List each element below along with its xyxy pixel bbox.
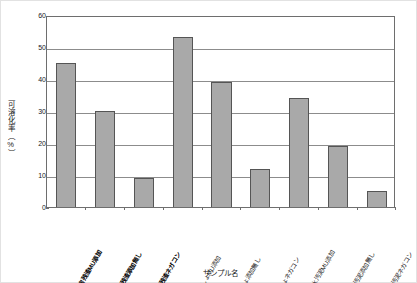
bar	[250, 169, 270, 207]
bar-slot	[47, 17, 86, 207]
y-axis-tick-label: 60	[6, 12, 46, 19]
bar-slot	[125, 17, 164, 207]
y-axis-tick-label: 50	[6, 44, 46, 51]
bar-slot	[241, 17, 280, 207]
bar	[289, 98, 309, 207]
bar-slot	[318, 17, 357, 207]
bar	[95, 111, 115, 207]
bar-slot	[202, 17, 241, 207]
y-axis-tick-label: 40	[6, 76, 46, 83]
bar	[134, 178, 154, 207]
plot-area	[46, 16, 395, 208]
bar-slot	[86, 17, 125, 207]
bar	[328, 146, 348, 207]
x-axis-tick-mark	[395, 207, 396, 210]
y-axis-tick-label: 20	[6, 140, 46, 147]
x-axis-label-group: 厨房残渣MU添加厨房残渣添加無し厨房残渣ネガコンばれいしょMU添加ばれいしょ添加…	[46, 209, 395, 267]
bar	[56, 63, 76, 207]
y-axis-tick-label: 0	[6, 204, 46, 211]
bar	[367, 191, 387, 207]
bar-chart-figure: 可溶化率（%） 0102030405060 厨房残渣MU添加厨房残渣添加無し厨房…	[0, 0, 417, 283]
bar-series	[47, 17, 394, 207]
bar	[173, 37, 193, 207]
bar-slot	[357, 17, 396, 207]
bar-slot	[163, 17, 202, 207]
bar	[211, 82, 231, 207]
bar-slot	[280, 17, 319, 207]
x-axis-title: サンプル名	[46, 267, 395, 278]
y-axis-tick-label: 30	[6, 108, 46, 115]
y-axis-tick-label: 10	[6, 172, 46, 179]
y-axis-tick-group: 0102030405060	[1, 16, 46, 208]
